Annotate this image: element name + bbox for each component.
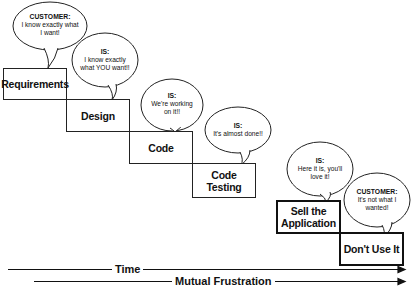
stage-label: Sell the Application [281, 205, 336, 229]
stage-requirements: Requirements [3, 68, 67, 100]
time-label: Time [112, 263, 143, 275]
bubble-text: We're working on it!! [151, 100, 192, 115]
stage-label: Don't Use It [344, 243, 400, 255]
speech-bubble-4: IS:It's almost done!! [206, 122, 270, 138]
bubble-speaker: IS: [149, 92, 195, 100]
speech-bubble-5: IS:Here it is, you'll love it! [294, 157, 346, 182]
bubble-text: Here it is, you'll love it! [298, 165, 343, 180]
bubble-speaker: IS: [294, 157, 346, 165]
bubble-text: I know exactly what YOU want!! [80, 56, 129, 71]
bubble-speaker: IS: [206, 122, 270, 130]
speech-bubble-6: CUSTOMER:It's not what I wanted! [351, 188, 403, 213]
bubble-text: It's not what I wanted! [358, 196, 397, 211]
frustration-label: Mutual Frustration [172, 275, 275, 287]
speech-bubble-1: CUSTOMER:I know exactly what I want! [20, 13, 80, 38]
stage-label: Requirements [1, 78, 69, 90]
speech-bubble-2: IS:I know exactly what YOU want!! [79, 48, 131, 73]
bubble-speaker: IS: [79, 48, 131, 56]
bubble-text: I know exactly what I want! [21, 21, 78, 36]
stage-code: Code [129, 131, 193, 164]
stage-design: Design [66, 99, 130, 132]
stage-label: Code Testing [193, 169, 255, 193]
bubble-speaker: CUSTOMER: [351, 188, 403, 196]
stage-dont-use-it: Don't Use It [339, 232, 404, 266]
speech-bubble-3: IS:We're working on it!! [149, 92, 195, 117]
stage-code-testing: Code Testing [192, 163, 256, 198]
stage-label: Code [148, 142, 173, 154]
bubble-text: It's almost done!! [213, 130, 263, 137]
stage-label: Design [81, 110, 115, 122]
bubble-speaker: CUSTOMER: [20, 13, 80, 21]
stage-sell-application: Sell the Application [276, 200, 341, 234]
time-arrow [8, 267, 405, 273]
